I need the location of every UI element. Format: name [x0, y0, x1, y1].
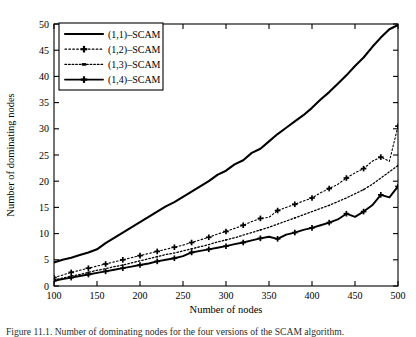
- legend-label-(1,4)-SCAM: (1,4)–SCAM: [108, 74, 161, 86]
- marker-dot: [328, 204, 330, 206]
- series-line-(1,2)-SCAM: [54, 126, 398, 277]
- y-tick-label-45: 45: [39, 45, 49, 56]
- x-tick-label-150: 150: [90, 290, 105, 301]
- y-tick-label-40: 40: [39, 71, 49, 82]
- marker-dot: [156, 256, 158, 258]
- x-axis-label: Number of nodes: [190, 304, 263, 315]
- legend-label-(1,3)-SCAM: (1,3)–SCAM: [108, 59, 161, 71]
- y-tick-label-10: 10: [39, 228, 49, 239]
- y-tick-label-50: 50: [39, 19, 49, 30]
- y-tick-label-5: 5: [44, 254, 49, 265]
- x-tick-label-450: 450: [348, 290, 363, 301]
- marker-dot: [191, 248, 193, 250]
- figure-container: 1001502002503003504004505000510152025303…: [0, 0, 416, 337]
- legend-label-(1,2)-SCAM: (1,2)–SCAM: [108, 44, 161, 56]
- marker-dot: [397, 165, 399, 167]
- figure-caption: Figure 11.1. Number of dominating nodes …: [6, 326, 410, 337]
- y-tick-label-30: 30: [39, 123, 49, 134]
- x-tick-label-250: 250: [176, 290, 191, 301]
- y-tick-label-20: 20: [39, 176, 49, 187]
- y-axis-label: Number of dominating nodes: [5, 93, 16, 216]
- marker-dot: [260, 229, 262, 231]
- y-tick-label-0: 0: [44, 281, 49, 292]
- marker-dot: [294, 217, 296, 219]
- y-tick-label-35: 35: [39, 97, 49, 108]
- x-tick-label-400: 400: [305, 290, 320, 301]
- x-tick-label-100: 100: [47, 290, 62, 301]
- y-tick-label-25: 25: [39, 150, 49, 161]
- legend-marker-dot: [82, 63, 86, 66]
- marker-dot: [225, 239, 227, 241]
- x-tick-label-350: 350: [262, 290, 277, 301]
- marker-dot: [363, 189, 365, 191]
- x-tick-label-500: 500: [391, 290, 406, 301]
- legend-label-(1,1)-SCAM: (1,1)–SCAM: [108, 29, 161, 41]
- x-tick-label-300: 300: [219, 290, 234, 301]
- y-tick-label-15: 15: [39, 202, 49, 213]
- x-tick-label-200: 200: [133, 290, 148, 301]
- line-chart: 1001502002503003504004505000510152025303…: [0, 0, 416, 337]
